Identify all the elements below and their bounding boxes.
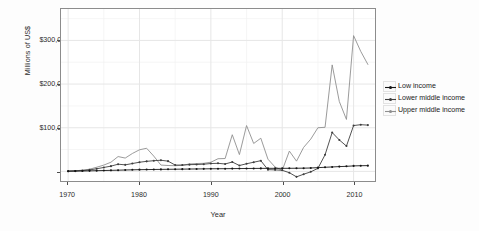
x-tick-mark xyxy=(354,182,355,185)
x-tick-mark xyxy=(211,182,212,185)
gridlines xyxy=(61,9,375,181)
legend-item[interactable]: Lower middle income xyxy=(383,92,479,104)
chart-legend: Low incomeLower middle incomeUpper middl… xyxy=(383,80,479,116)
legend-key-icon xyxy=(383,105,396,116)
legend-key-icon xyxy=(383,93,396,104)
x-tick-label: 2010 xyxy=(334,191,374,199)
chart-figure: Millions of US$ Year $0$100,000$200,000$… xyxy=(0,0,479,231)
legend-key-icon xyxy=(383,81,396,92)
plot-panel xyxy=(60,8,376,182)
legend-item-label: Upper middle income xyxy=(398,106,465,114)
legend-item[interactable]: Low income xyxy=(383,80,479,92)
x-tick-label: 2000 xyxy=(263,191,303,199)
x-tick-mark xyxy=(283,182,284,185)
x-tick-mark xyxy=(139,182,140,185)
x-axis-title: Year xyxy=(60,210,376,219)
legend-item-label: Low income xyxy=(398,82,436,90)
legend-item[interactable]: Upper middle income xyxy=(383,104,479,116)
x-tick-label: 1990 xyxy=(191,191,231,199)
x-tick-label: 1980 xyxy=(119,191,159,199)
legend-item-label: Lower middle income xyxy=(398,94,465,102)
x-tick-label: 1970 xyxy=(47,191,87,199)
series-upper-middle-income xyxy=(68,36,368,171)
plot-area xyxy=(61,9,375,181)
y-axis-title: Millions of US$ xyxy=(23,0,32,111)
x-tick-mark xyxy=(67,182,68,185)
